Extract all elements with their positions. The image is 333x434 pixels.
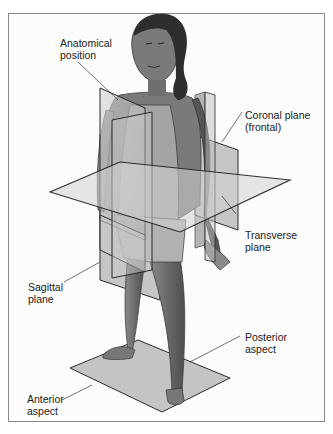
label-anatomical-position: Anatomical position	[60, 37, 112, 61]
label-coronal-plane: Coronal plane (frontal)	[245, 109, 310, 133]
transverse-plane	[50, 162, 290, 232]
floor-plane	[70, 340, 230, 412]
head	[132, 14, 188, 100]
label-sagittal-plane: Sagittal plane	[28, 281, 63, 305]
label-transverse-plane: Transverse plane	[245, 229, 297, 253]
label-posterior-aspect: Posterior aspect	[245, 331, 287, 355]
anatomical-planes-illustration	[0, 0, 333, 434]
label-anterior-aspect: Anterior aspect	[27, 393, 64, 417]
